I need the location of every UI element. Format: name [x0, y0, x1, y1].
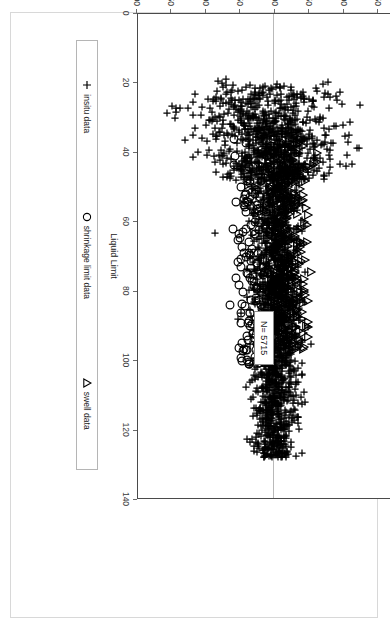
scatter-point-circle	[236, 308, 246, 318]
scatter-point-circle	[262, 162, 272, 172]
scatter-point-circle	[257, 145, 267, 155]
scatter-point-plus	[188, 111, 197, 120]
scatter-point-circle	[225, 300, 235, 310]
scatter-point-plus	[205, 116, 214, 125]
scatter-point-plus	[259, 446, 268, 455]
x-tick-label: 140	[121, 492, 131, 506]
x-tick-mark	[133, 499, 137, 500]
scatter-point-plus	[246, 94, 255, 103]
scatter-point-triangle	[299, 287, 309, 297]
scatter-point-triangle	[272, 152, 282, 162]
scatter-point-plus	[259, 437, 268, 446]
scatter-point-plus	[216, 145, 225, 154]
scatter-point-plus	[276, 402, 285, 411]
scatter-point-plus	[272, 91, 281, 100]
scatter-point-plus	[288, 105, 297, 114]
scatter-point-plus	[291, 378, 300, 387]
x-tick-mark	[133, 152, 137, 153]
y-tick-mark	[205, 9, 206, 13]
scatter-point-circle	[255, 203, 265, 213]
y-tick-mark	[136, 9, 137, 13]
scatter-point-triangle	[276, 333, 286, 343]
scatter-point-triangle	[302, 237, 312, 247]
scatter-point-circle	[244, 359, 254, 369]
scatter-point-plus	[270, 370, 279, 379]
scatter-point-circle	[243, 155, 253, 165]
scatter-point-triangle	[278, 139, 288, 149]
scatter-point-plus	[312, 87, 321, 96]
scatter-point-plus	[259, 83, 268, 92]
scatter-point-plus	[284, 395, 293, 404]
scatter-point-plus	[218, 159, 227, 168]
scatter-point-triangle	[282, 149, 292, 159]
scatter-point-circle	[236, 318, 246, 328]
scatter-point-circle	[229, 134, 239, 144]
scatter-point-plus	[341, 161, 350, 170]
scatter-point-plus	[171, 114, 180, 123]
scatter-point-circle	[267, 182, 277, 192]
y-tick-label: 1.00	[339, 0, 349, 6]
y-tick-mark	[343, 9, 344, 13]
x-tick-label: 60	[121, 217, 131, 226]
scatter-point-circle	[256, 300, 266, 310]
scatter-point-plus	[262, 398, 271, 407]
scatter-point-plus	[222, 98, 231, 107]
scatter-point-plus	[354, 143, 363, 152]
scatter-point-plus	[211, 168, 220, 177]
scatter-point-plus	[197, 134, 206, 143]
scatter-point-triangle	[303, 317, 313, 327]
scatter-point-circle	[242, 176, 252, 186]
scatter-point-triangle	[312, 148, 322, 158]
scatter-point-triangle	[271, 276, 281, 286]
scatter-point-circle	[249, 276, 259, 286]
legend-label-insitu: insitu data	[82, 94, 92, 133]
y-tick-label: 1.50	[374, 0, 384, 6]
scatter-point-triangle	[254, 132, 264, 142]
scatter-point-triangle	[312, 157, 322, 167]
scatter-point-plus	[246, 378, 255, 387]
scatter-point-plus	[275, 103, 284, 112]
scatter-point-triangle	[275, 321, 285, 331]
legend: insitu data shrinkage limit data swell d…	[76, 40, 98, 470]
scatter-point-plus	[175, 103, 184, 112]
scatter-point-triangle	[303, 332, 313, 342]
scatter-point-plus	[251, 432, 260, 441]
scatter-point-plus	[188, 98, 197, 107]
legend-label-shrinkage: shrinkage limit data	[82, 226, 92, 299]
scatter-point-plus	[202, 151, 211, 160]
scatter-point-plus	[219, 130, 228, 139]
scatter-point-plus	[325, 124, 334, 133]
scatter-point-circle	[258, 270, 268, 280]
scatter-point-triangle	[270, 244, 280, 254]
x-tick-label: 80	[121, 286, 131, 295]
scatter-point-plus	[261, 414, 270, 423]
scatter-point-circle	[256, 176, 266, 186]
scatter-point-plus	[355, 101, 364, 110]
scatter-point-plus	[236, 105, 245, 114]
triangle-icon	[82, 378, 92, 388]
scatter-point-plus	[196, 110, 205, 119]
x-tick-label: 100	[121, 353, 131, 367]
scatter-point-plus	[323, 89, 332, 98]
scatter-point-plus	[279, 423, 288, 432]
sample-size-annotation: N= 5715	[254, 311, 274, 365]
scatter-point-triangle	[280, 272, 290, 282]
scatter-point-plus	[325, 155, 334, 164]
x-tick-label: 40	[121, 147, 131, 156]
scatter-point-plus	[277, 437, 286, 446]
scatter-point-plus	[345, 118, 354, 127]
scatter-point-triangle	[298, 344, 308, 354]
x-tick-mark	[133, 430, 137, 431]
scatter-point-plus	[332, 96, 341, 105]
y-tick-mark	[274, 9, 275, 13]
x-tick-label: 120	[121, 422, 131, 436]
y-tick-label: 0.00	[270, 0, 280, 6]
scatter-point-triangle	[278, 161, 288, 171]
scatter-point-plus	[324, 104, 333, 113]
scatter-point-plus	[345, 130, 354, 139]
legend-label-swell: swell data	[82, 392, 92, 430]
scatter-point-plus	[289, 94, 298, 103]
scatter-point-triangle	[292, 225, 302, 235]
scatter-point-triangle	[294, 138, 304, 148]
scatter-point-plus	[297, 449, 306, 458]
